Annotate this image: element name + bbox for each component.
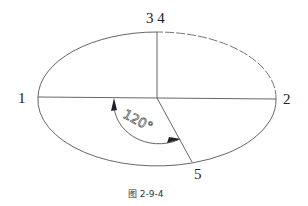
point-label-1: 1	[18, 90, 26, 106]
angle-label: 120°	[121, 106, 156, 134]
ellipse-diagram: 120° 1 2 3 4 5 图 2-9-4	[0, 0, 308, 206]
point-label-2: 2	[283, 91, 291, 107]
figure-caption: 图 2-9-4	[128, 189, 164, 199]
arrowhead-start	[111, 98, 117, 111]
ellipse-dashed-arc	[157, 32, 276, 99]
line-center-5	[157, 98, 192, 162]
point-label-5: 5	[194, 166, 202, 182]
point-label-34: 3 4	[146, 10, 165, 26]
